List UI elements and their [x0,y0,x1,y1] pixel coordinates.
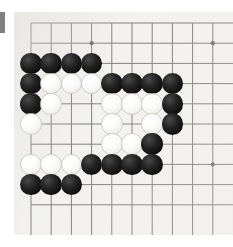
black-stone[interactable] [162,73,183,94]
white-stone[interactable] [101,133,122,154]
white-stone[interactable] [40,73,61,94]
black-stone[interactable] [20,174,41,195]
black-stone[interactable] [121,154,142,175]
white-stone[interactable] [40,154,61,175]
white-stone[interactable] [101,93,122,114]
black-stone[interactable] [141,133,162,154]
white-stone[interactable] [141,113,162,134]
black-stone[interactable] [162,93,183,114]
white-stone[interactable] [121,93,142,114]
goban-board[interactable] [14,12,233,235]
white-stone[interactable] [101,113,122,134]
white-stone[interactable] [40,93,61,114]
black-stone[interactable] [61,174,82,195]
black-stone[interactable] [141,154,162,175]
white-stone[interactable] [61,73,82,94]
go-board-screenshot [0,0,233,247]
left-edge-bar [0,12,5,33]
black-stone[interactable] [81,53,102,74]
black-stone[interactable] [121,73,142,94]
white-stone[interactable] [20,113,41,134]
white-stone[interactable] [141,93,162,114]
black-stone[interactable] [101,73,122,94]
black-stone[interactable] [40,53,61,74]
black-stone[interactable] [141,73,162,94]
white-stone[interactable] [61,154,82,175]
black-stone[interactable] [162,113,183,134]
stone-layer[interactable] [14,12,233,235]
black-stone[interactable] [20,53,41,74]
black-stone[interactable] [40,174,61,195]
white-stone[interactable] [81,73,102,94]
black-stone[interactable] [61,53,82,74]
white-stone[interactable] [121,133,142,154]
black-stone[interactable] [101,154,122,175]
black-stone[interactable] [20,93,41,114]
black-stone[interactable] [81,154,102,175]
white-stone[interactable] [20,154,41,175]
black-stone[interactable] [20,73,41,94]
